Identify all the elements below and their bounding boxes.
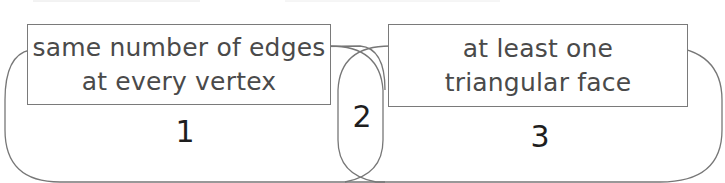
right-set-label-line-2: triangular face <box>445 66 632 100</box>
region-right-only-number: 3 <box>530 122 549 152</box>
right-set-label-line-1: at least one <box>463 32 613 66</box>
right-set-label: at least one triangular face <box>388 24 688 107</box>
region-intersection-number: 2 <box>352 102 371 132</box>
left-set-label-line-1: same number of edges <box>32 31 325 65</box>
region-left-only-number: 1 <box>175 117 194 147</box>
left-set-label: same number of edges at every vertex <box>27 24 331 105</box>
left-set-label-line-2: at every vertex <box>82 65 277 99</box>
